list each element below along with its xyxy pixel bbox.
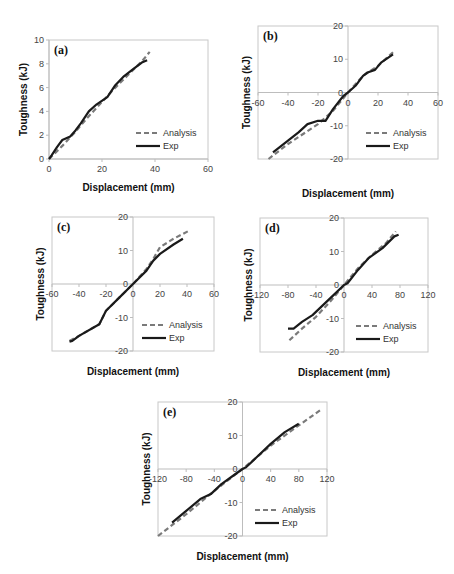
y-axis-title: Toughness (kJ) — [35, 247, 46, 320]
x-tick-label: 80 — [395, 290, 405, 300]
y-axis-title: Toughness (kJ) — [141, 432, 152, 505]
y-tick-label: -20 — [326, 347, 339, 357]
panel-label: (a) — [54, 43, 68, 57]
chart-panel-c: -60-40-200204060-20-1001020(c)AnalysisEx… — [35, 212, 219, 377]
x-tick-label: 20 — [373, 98, 383, 108]
x-tick-label: -40 — [309, 290, 322, 300]
y-tick-label: 0 — [39, 154, 44, 164]
legend-label-analysis: Analysis — [169, 320, 203, 330]
legend-label-exp: Exp — [163, 141, 179, 151]
y-tick-label: 8 — [39, 59, 44, 69]
x-tick-label: -20 — [99, 289, 112, 299]
chart-panel-e: -120-80-4004080120-20-1001020(e)Analysis… — [141, 397, 335, 562]
y-tick-label: -10 — [326, 314, 339, 324]
y-tick-label: 10 — [34, 35, 44, 45]
y-axis-title: Toughness (kJ) — [241, 56, 252, 129]
y-tick-label: 20 — [227, 397, 237, 407]
x-tick-label: 60 — [433, 98, 443, 108]
legend-label-exp: Exp — [383, 334, 399, 344]
x-tick-label: 120 — [420, 290, 435, 300]
figure-container: 02040600246810(a)AnalysisExpDisplacement… — [0, 0, 454, 574]
y-tick-label: 2 — [39, 130, 44, 140]
x-tick-label: 0 — [345, 98, 350, 108]
y-tick-label: 4 — [39, 106, 44, 116]
x-tick-label: -40 — [72, 289, 85, 299]
x-tick-label: 40 — [403, 98, 413, 108]
legend-label-analysis: Analysis — [163, 128, 197, 138]
y-tick-label: 20 — [118, 212, 128, 222]
y-tick-label: -10 — [330, 121, 343, 131]
y-tick-label: -20 — [115, 346, 128, 356]
x-tick-label: 60 — [203, 164, 213, 174]
x-tick-label: 40 — [182, 289, 192, 299]
x-tick-label: 40 — [266, 474, 276, 484]
x-axis-title: Displacement (mm) — [82, 182, 174, 193]
x-tick-label: -60 — [251, 98, 264, 108]
y-tick-label: -20 — [224, 531, 237, 541]
cut-off-caption-text — [0, 0, 454, 4]
y-tick-label: 10 — [227, 431, 237, 441]
y-axis-title: Toughness (kJ) — [18, 63, 29, 136]
x-tick-label: 0 — [130, 289, 135, 299]
y-tick-label: 20 — [333, 21, 343, 31]
panel-label: (d) — [265, 221, 280, 235]
x-tick-label: 0 — [341, 290, 346, 300]
x-tick-label: -40 — [281, 98, 294, 108]
x-axis-title: Displacement (mm) — [298, 367, 390, 378]
legend-label-analysis: Analysis — [383, 321, 417, 331]
x-tick-label: 120 — [319, 474, 334, 484]
figure-svg: 02040600246810(a)AnalysisExpDisplacement… — [0, 0, 454, 574]
x-tick-label: 0 — [240, 474, 245, 484]
y-tick-label: -10 — [115, 313, 128, 323]
plot-area-frame — [49, 40, 208, 159]
x-tick-label: -20 — [311, 98, 324, 108]
x-axis-title: Displacement (mm) — [196, 551, 288, 562]
legend-label-exp: Exp — [282, 518, 298, 528]
y-tick-label: -10 — [224, 498, 237, 508]
y-tick-label: 6 — [39, 83, 44, 93]
x-tick-label: -80 — [180, 474, 193, 484]
y-tick-label: 0 — [123, 279, 128, 289]
y-tick-label: 10 — [333, 54, 343, 64]
x-tick-label: 80 — [294, 474, 304, 484]
x-tick-label: -40 — [208, 474, 221, 484]
legend-label-exp: Exp — [169, 333, 185, 343]
legend-label-analysis: Analysis — [282, 505, 316, 515]
y-tick-label: 10 — [329, 247, 339, 257]
panel-label: (b) — [263, 29, 278, 43]
chart-panel-b: -60-40-200204060-20-1001020(b)AnalysisEx… — [241, 21, 443, 199]
x-tick-label: -60 — [45, 289, 58, 299]
y-tick-label: 10 — [118, 246, 128, 256]
legend-label-exp: Exp — [393, 141, 409, 151]
y-tick-label: -20 — [330, 154, 343, 164]
x-tick-label: 20 — [97, 164, 107, 174]
x-axis-title: Displacement (mm) — [302, 188, 394, 199]
y-tick-label: 0 — [334, 280, 339, 290]
x-tick-label: 0 — [46, 164, 51, 174]
x-tick-label: 60 — [209, 289, 219, 299]
x-axis-title: Displacement (mm) — [87, 366, 179, 377]
x-tick-label: -80 — [281, 290, 294, 300]
chart-panel-a: 02040600246810(a)AnalysisExpDisplacement… — [18, 35, 213, 193]
chart-panel-d: -120-80-4004080120-20-1001020(d)Analysis… — [243, 213, 436, 378]
x-tick-label: 40 — [150, 164, 160, 174]
legend-label-analysis: Analysis — [393, 128, 427, 138]
panel-label: (c) — [57, 220, 70, 234]
x-tick-label: 40 — [367, 290, 377, 300]
panel-label: (e) — [163, 405, 176, 419]
x-tick-label: 20 — [155, 289, 165, 299]
y-axis-title: Toughness (kJ) — [243, 248, 254, 321]
y-tick-label: 20 — [329, 213, 339, 223]
